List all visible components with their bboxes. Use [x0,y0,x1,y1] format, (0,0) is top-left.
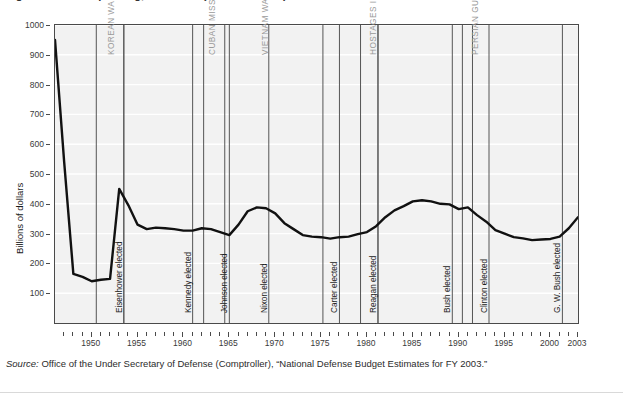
x-tick-mark [375,332,376,336]
x-tick-mark [412,332,413,337]
y-tick-mark [46,234,50,235]
x-tick-mark [338,332,339,336]
y-tick-mark [46,263,50,264]
x-tick-mark [559,332,560,336]
x-tick-mark [384,332,385,336]
figure-root: Figure: Defense spending, 1946-2003 (in … [0,0,623,399]
x-tick-label: 1975 [311,338,330,348]
x-tick-mark [458,332,459,337]
y-tick-mark [46,293,50,294]
x-tick-label: 1995 [494,338,513,348]
x-tick-mark [182,332,183,337]
x-tick-mark [430,332,431,336]
x-tick-mark [476,332,477,336]
x-tick-mark [192,332,193,336]
y-tick-mark [46,174,50,175]
x-tick-mark [210,332,211,336]
y-tick-mark [46,114,50,115]
event-label-vietnam-war: VIETNAM WAR [261,0,270,55]
x-tick-label: 1990 [448,338,467,348]
election-label-johnson-elected: Johnson elected [220,253,229,313]
x-tick-mark [118,332,119,336]
source-label: Source: [6,358,39,369]
chart-svg [55,25,578,323]
x-tick-mark [293,332,294,336]
x-tick-mark [91,332,92,337]
plot-area: KOREAN WARCUBAN MISSILE CRISISVIETNAM WA… [54,24,579,324]
event-label-persian-gulf-war: PERSIAN GULF WAR [471,0,480,55]
y-tick-label: 300 [30,229,44,239]
y-axis-tick-labels: 1000900800700600500400300200100 [14,24,50,324]
y-tick-label: 500 [30,169,44,179]
x-tick-mark [320,332,321,337]
x-tick-mark [504,332,505,337]
y-tick-label: 700 [30,109,44,119]
x-tick-mark [329,332,330,336]
x-tick-mark [173,332,174,336]
x-tick-label: 2000 [540,338,559,348]
x-tick-mark [421,332,422,336]
election-label-reagan-elected: Reagan elected [369,256,378,313]
x-tick-mark [238,332,239,336]
x-tick-mark [467,332,468,336]
x-tick-mark [137,332,138,337]
election-label-nixon-elected: Nixon elected [260,263,269,313]
y-tick-mark [46,85,50,86]
x-tick-mark [127,332,128,336]
election-label-clinton-elected: Clinton elected [480,259,489,313]
election-label-g-w-bush-elected: G. W. Bush elected [553,243,562,313]
x-tick-mark [540,332,541,336]
event-label-cuban-missile-crisis: CUBAN MISSILE CRISIS [208,0,217,55]
x-tick-mark [348,332,349,336]
x-tick-mark [201,332,202,336]
x-tick-mark [403,332,404,336]
y-tick-label: 400 [30,199,44,209]
event-label-hostages-in-iran: HOSTAGES IN IRAN [369,0,378,55]
y-tick-label: 100 [30,288,44,298]
election-label-carter-elected: Carter elected [330,262,339,313]
x-tick-mark [247,332,248,336]
x-tick-mark [357,332,358,336]
bottom-divider [0,392,623,393]
y-tick-label: 600 [30,139,44,149]
y-tick-mark [46,204,50,205]
x-tick-mark [256,332,257,336]
x-tick-label: 1980 [356,338,375,348]
election-label-bush-elected: Bush elected [443,266,452,313]
x-tick-mark [146,332,147,336]
x-tick-label: 1985 [402,338,421,348]
x-tick-mark [63,332,64,336]
election-label-kennedy-elected: Kennedy elected [184,252,193,313]
x-tick-mark [72,332,73,336]
x-tick-mark [100,332,101,336]
x-tick-label: 1970 [265,338,284,348]
x-tick-mark [393,332,394,336]
x-tick-label: 1960 [173,338,192,348]
data-line [55,40,578,281]
y-tick-mark [46,25,50,26]
x-tick-mark [366,332,367,337]
x-tick-mark [302,332,303,336]
x-tick-mark [228,332,229,337]
x-tick-mark [164,332,165,336]
x-tick-mark [82,332,83,336]
x-tick-mark [513,332,514,336]
x-tick-mark [109,332,110,336]
y-tick-label: 800 [30,80,44,90]
x-tick-mark [568,332,569,336]
x-tick-mark [311,332,312,336]
x-tick-mark [449,332,450,336]
figure-title-clipped: Figure: Defense spending, 1946-2003 (in … [0,0,623,5]
x-tick-mark [265,332,266,336]
x-tick-mark [274,332,275,337]
x-tick-mark [283,332,284,336]
election-label-eisenhower-elected: Eisenhower elected [115,242,124,313]
x-tick-label: 1955 [127,338,146,348]
x-tick-mark [522,332,523,336]
x-tick-mark [577,332,578,337]
y-tick-label: 900 [30,50,44,60]
x-tick-mark [549,332,550,337]
y-tick-mark [46,55,50,56]
x-tick-mark [494,332,495,336]
x-tick-mark [439,332,440,336]
